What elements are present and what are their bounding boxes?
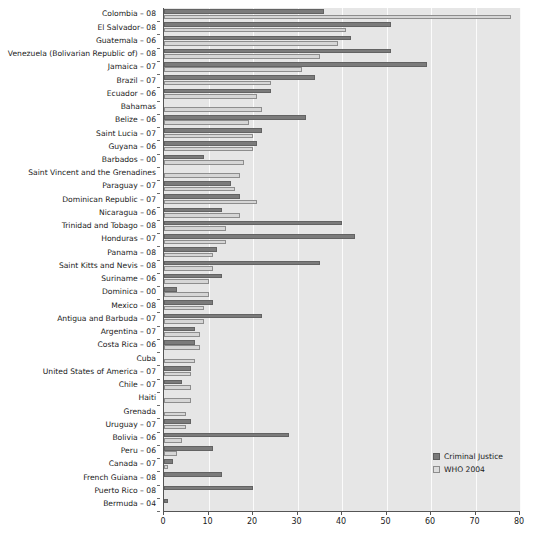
category-label: Uruguay – 07 — [105, 421, 156, 429]
bar-row — [164, 418, 520, 431]
bar-who-2004 — [164, 292, 209, 297]
category-label: Saint Kitts and Nevis – 08 — [59, 262, 156, 270]
bar-who-2004 — [164, 438, 182, 443]
bar-criminal-justice — [164, 141, 257, 146]
category-label: Antigua and Barbuda – 07 — [57, 315, 156, 323]
bar-who-2004 — [164, 319, 204, 324]
category-tick — [157, 61, 160, 62]
x-tick-label-40: 40 — [336, 517, 346, 526]
category-tick — [157, 286, 160, 287]
bar-criminal-justice — [164, 128, 262, 133]
bar-who-2004 — [164, 15, 511, 20]
category-label: Haiti — [138, 394, 156, 402]
category-label: Brazil – 07 — [117, 77, 156, 85]
bar-row — [164, 260, 520, 273]
bar-row — [164, 74, 520, 87]
category-label: Bermuda – 04 — [103, 500, 156, 508]
category-tick — [157, 352, 160, 353]
category-label: Argentina – 07 — [101, 328, 156, 336]
category-tick — [157, 48, 160, 49]
bar-row — [164, 140, 520, 153]
bar-criminal-justice — [164, 247, 217, 252]
category-tick — [157, 418, 160, 419]
bar-criminal-justice — [164, 75, 315, 80]
bar-who-2004 — [164, 359, 195, 364]
category-label: Bahamas — [121, 103, 156, 111]
bar-row — [164, 34, 520, 47]
x-tick-70 — [475, 511, 476, 515]
x-tick-30 — [297, 511, 298, 515]
bar-row — [164, 485, 520, 498]
bar-who-2004 — [164, 226, 226, 231]
bar-who-2004 — [164, 173, 240, 178]
category-tick — [157, 432, 160, 433]
category-label: Dominican Republic – 07 — [62, 196, 156, 204]
category-tick — [157, 379, 160, 380]
category-tick — [157, 471, 160, 472]
legend-swatch-criminal-justice — [433, 453, 440, 460]
bar-row — [164, 326, 520, 339]
bar-criminal-justice — [164, 208, 222, 213]
category-tick — [157, 498, 160, 499]
category-tick — [157, 485, 160, 486]
bar-row — [164, 365, 520, 378]
x-tick-0 — [163, 511, 164, 515]
bar-row — [164, 379, 520, 392]
category-tick — [157, 392, 160, 393]
bar-criminal-justice — [164, 9, 324, 14]
category-label: Canada – 07 — [109, 460, 156, 468]
bar-row — [164, 61, 520, 74]
category-tick — [157, 405, 160, 406]
bar-row — [164, 167, 520, 180]
category-label: Grenada — [124, 408, 156, 416]
category-tick — [157, 193, 160, 194]
x-tick-label-30: 30 — [291, 517, 301, 526]
legend-item-criminal-justice: Criminal Justice — [433, 452, 503, 461]
category-tick — [157, 220, 160, 221]
bar-who-2004 — [164, 28, 346, 33]
bar-who-2004 — [164, 213, 240, 218]
bar-criminal-justice — [164, 486, 253, 491]
bar-row — [164, 193, 520, 206]
bar-who-2004 — [164, 134, 253, 139]
bar-criminal-justice — [164, 261, 320, 266]
bar-who-2004 — [164, 147, 253, 152]
category-tick — [157, 233, 160, 234]
category-label: Venezuela (Bolivarian Republic of) – 08 — [8, 50, 156, 58]
bar-who-2004 — [164, 107, 262, 112]
bar-who-2004 — [164, 451, 177, 456]
bar-who-2004 — [164, 54, 320, 59]
bar-row — [164, 21, 520, 34]
bar-who-2004 — [164, 120, 249, 125]
bar-criminal-justice — [164, 36, 351, 41]
bar-who-2004 — [164, 81, 271, 86]
category-tick — [157, 74, 160, 75]
bar-row — [164, 392, 520, 405]
category-label: Costa Rica – 06 — [98, 341, 156, 349]
x-tick-60 — [430, 511, 431, 515]
category-tick — [157, 260, 160, 261]
bar-who-2004 — [164, 94, 257, 99]
bar-who-2004 — [164, 187, 235, 192]
category-label: United States of America – 07 — [43, 368, 156, 376]
bar-who-2004 — [164, 266, 213, 271]
bar-who-2004 — [164, 345, 200, 350]
bar-criminal-justice — [164, 380, 182, 385]
bar-row — [164, 312, 520, 325]
category-tick — [157, 511, 160, 512]
bar-criminal-justice — [164, 181, 231, 186]
bar-row — [164, 352, 520, 365]
legend-label-who-2004: WHO 2004 — [444, 465, 485, 474]
category-label: Guyana – 06 — [108, 143, 156, 151]
category-label: Panama – 08 — [107, 249, 156, 257]
category-label: Bolivia – 06 — [112, 434, 156, 442]
category-label: Guatemala – 06 — [96, 37, 156, 45]
horizontal-bar-chart: Colombia – 08El Salvador– 08Guatemala – … — [0, 0, 535, 539]
bar-criminal-justice — [164, 194, 240, 199]
bar-criminal-justice — [164, 22, 391, 27]
bar-who-2004 — [164, 67, 302, 72]
x-tick-label-10: 10 — [202, 517, 212, 526]
category-tick — [157, 21, 160, 22]
bar-row — [164, 405, 520, 418]
bar-who-2004 — [164, 306, 204, 311]
